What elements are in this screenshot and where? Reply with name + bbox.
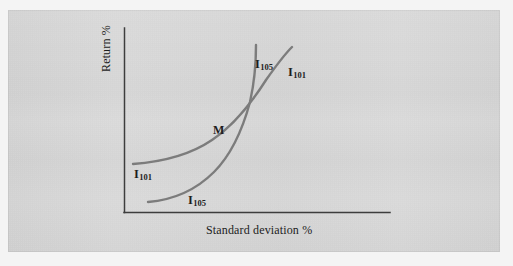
curve-label-i105-top: I105	[255, 58, 273, 72]
figure-root: Return % Standard deviation % M I105 I10…	[0, 0, 513, 266]
curve-label-i101-bottom-sub: 101	[139, 172, 152, 182]
tangency-point-label: M	[213, 124, 224, 136]
curve-label-i105-bottom: I105	[188, 194, 206, 208]
y-axis-title: Return %	[100, 25, 112, 72]
curve-label-i105-bottom-sub: 105	[193, 198, 206, 208]
curve-label-i105-top-sub: 105	[260, 62, 273, 72]
x-axis-title: Standard deviation %	[206, 224, 312, 236]
curve-label-i101-bottom: I101	[134, 168, 152, 182]
curve-label-i101-top-sub: 101	[293, 70, 306, 80]
curve-label-i101-top: I101	[288, 66, 306, 80]
curve-i105	[148, 45, 256, 202]
